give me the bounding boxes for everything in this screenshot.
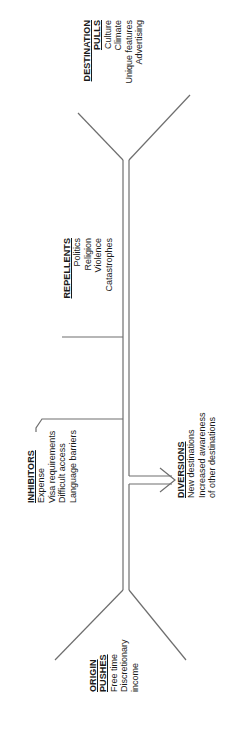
diversions-block: DIVERSIONS New destinations Increased aw… [176, 388, 218, 498]
repellents-item: Catastrophes [104, 238, 114, 333]
destination-pulls-block: DESTINATION PULLS Culture Climate Unique… [82, 20, 144, 130]
inhibitors-item: Expense [36, 403, 46, 503]
diversion-arrowhead [160, 468, 175, 492]
destination-header-1: DESTINATION [82, 20, 92, 130]
destination-item: Advertising [134, 20, 144, 130]
origin-item: Free time [109, 622, 119, 692]
inhibitors-block: INHIBITORS Expense Visa requirements Dif… [26, 403, 78, 503]
destination-item: Unique features [124, 20, 134, 130]
origin-header-2: PUSHES [98, 622, 108, 692]
origin-item: income [130, 622, 140, 692]
diversions-item: New destinations [186, 388, 196, 498]
destination-item: Culture [103, 20, 113, 130]
inhibitors-header: INHIBITORS [26, 403, 36, 503]
destination-item: Climate [113, 20, 123, 130]
origin-pushes-block: ORIGIN PUSHES Free time Discretionary in… [88, 622, 140, 692]
diversions-item: Increased awareness [197, 388, 207, 498]
repellents-item: Religion [83, 238, 93, 333]
diversions-item: of other destinations [207, 388, 217, 498]
destination-header-2: PULLS [92, 20, 102, 130]
repellents-block: REPELLENTS Politics Religion Violence Ca… [62, 238, 114, 333]
inhibitors-item: Visa requirements [47, 403, 57, 503]
diversions-header: DIVERSIONS [176, 388, 186, 498]
repellents-header: REPELLENTS [62, 238, 72, 333]
inhibitors-item: Language barriers [68, 403, 78, 503]
repellents-item: Politics [72, 238, 82, 333]
origin-item: Discretionary [119, 622, 129, 692]
origin-header-1: ORIGIN [88, 622, 98, 692]
repellents-item: Violence [93, 238, 103, 333]
inhibitors-item: Difficult access [57, 403, 67, 503]
